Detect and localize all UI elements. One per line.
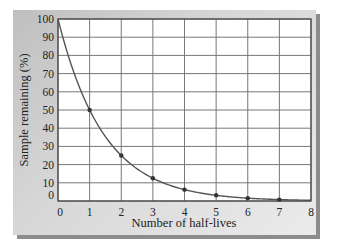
x-tick-label: 1 — [87, 206, 93, 218]
y-tick-label: 80 — [43, 49, 55, 61]
y-tick-label: 90 — [43, 31, 55, 43]
x-tick-label: 8 — [308, 206, 314, 218]
data-point — [214, 193, 218, 197]
y-axis-ticks: 0102030405060708090100 — [37, 13, 55, 201]
x-axis-label: Number of half-lives — [132, 216, 237, 230]
y-tick-label: 50 — [43, 104, 55, 116]
x-tick-label: 0 — [57, 206, 63, 218]
data-point — [119, 153, 123, 157]
x-tick-label: 6 — [245, 206, 251, 218]
y-tick-label: 70 — [43, 68, 55, 80]
y-tick-label: 60 — [43, 86, 55, 98]
half-life-chart: 0102030405060708090100 012345678 Number … — [0, 0, 340, 251]
y-tick-label: 20 — [43, 159, 55, 171]
x-tick-label: 7 — [277, 206, 283, 218]
y-tick-label: 100 — [37, 13, 55, 25]
data-point — [151, 176, 155, 180]
data-point — [246, 196, 250, 200]
data-point — [277, 197, 281, 201]
data-point — [87, 108, 91, 112]
y-axis-label: Sample remaining (%) — [17, 53, 31, 166]
x-tick-label: 2 — [118, 206, 124, 218]
y-tick-label: 0 — [48, 189, 54, 201]
data-point — [182, 187, 186, 191]
y-tick-label: 30 — [43, 140, 55, 152]
y-tick-label: 10 — [43, 177, 55, 189]
y-tick-label: 40 — [43, 122, 55, 134]
